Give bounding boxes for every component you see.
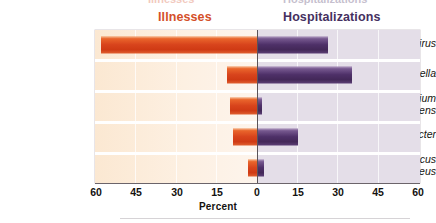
bar-hospitalizations-salmonella [258,66,352,83]
clipped-fragment-right: Hospitalizations [283,0,367,5]
clipped-fragment-left: Illnesses [148,0,194,5]
bar-hospitalizations-campylobacter [258,128,298,145]
plot-area [95,30,420,183]
zero-axis-line [257,30,258,183]
bar-illnesses-staphylococcus-aureus [248,159,257,176]
x-tick-15-right: 15 [281,186,315,198]
bar-hospitalizations-clostridium-perfringens [258,97,262,114]
x-tick-0: 0 [240,186,274,198]
x-tick-45-right: 45 [361,186,395,198]
x-axis-line [95,183,420,184]
bar-hospitalizations-norovirus [258,36,328,53]
x-tick-60-right: 60 [401,186,435,198]
legend-label-hospitalizations: Hospitalizations [283,10,380,24]
x-tick-30-right: 30 [321,186,355,198]
x-axis-title: Percent [0,201,436,212]
bar-illnesses-clostridium-perfringens [230,97,257,114]
x-tick-15-left: 15 [200,186,234,198]
bar-hospitalizations-staphylococcus-aureus [258,159,264,176]
bar-illnesses-salmonella [227,66,257,83]
x-tick-60-left: 60 [79,186,113,198]
bar-illnesses-campylobacter [233,128,257,145]
clipped-title-remnant: Illnesses Hospitalizations [0,0,436,5]
bottom-divider [120,218,410,219]
x-tick-45-left: 45 [119,186,153,198]
bar-chart: Illnesses Hospitalizations Illnesses Hos… [0,0,436,223]
legend-label-illnesses: Illnesses [158,10,212,24]
x-tick-30-left: 30 [160,186,194,198]
bar-illnesses-norovirus [101,36,257,53]
